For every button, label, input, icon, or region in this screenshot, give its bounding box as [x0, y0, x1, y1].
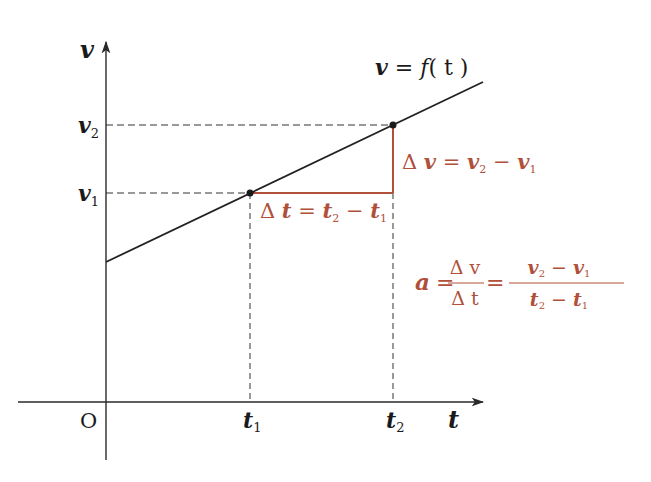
frac1-denominator: Δ t — [451, 287, 479, 309]
curve-label: v = f( t ) — [375, 54, 468, 80]
y-tick-v2: v2 — [78, 112, 99, 141]
origin-label: O — [80, 409, 97, 433]
frac2-denominator: t2 − t1 — [530, 288, 588, 311]
velocity-time-diagram: v t O v2 v1 t1 t2 v = f( t ) Δ v = v2 − … — [0, 0, 651, 482]
x-axis-label: t — [448, 405, 459, 434]
delta-t-label: Δ t = t2 − t1 — [260, 198, 387, 225]
frac1-numerator: Δ v — [450, 256, 481, 278]
svg-text:v1: v1 — [78, 180, 99, 209]
svg-text:v2: v2 — [78, 112, 99, 141]
formula-eq2: = — [486, 270, 504, 295]
delta-v-label: Δ v = v2 − v1 — [402, 149, 536, 176]
svg-text:t1: t1 — [243, 407, 261, 435]
y-axis-label: v — [80, 35, 95, 64]
x-tick-t1: t1 — [243, 407, 261, 435]
point-t2-v2 — [390, 122, 397, 129]
point-t1-v1 — [247, 190, 254, 197]
formula-lhs: a — [415, 268, 430, 295]
frac2-numerator: v2 − v1 — [528, 256, 591, 279]
svg-text:t2: t2 — [386, 407, 404, 435]
y-tick-v1: v1 — [78, 180, 99, 209]
acceleration-formula: a = Δ v Δ t = v2 − v1 t2 − t1 — [415, 256, 624, 311]
x-tick-t2: t2 — [386, 407, 404, 435]
